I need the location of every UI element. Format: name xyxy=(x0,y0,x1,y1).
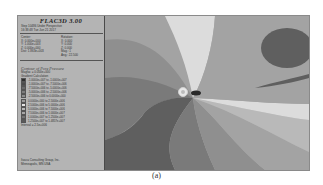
figure-caption: (a) xyxy=(152,171,161,180)
dist-value: Dist: 1.863e+003 xyxy=(21,50,44,54)
divider xyxy=(20,60,103,61)
singularity-dark-spot xyxy=(191,91,201,96)
divider xyxy=(20,33,103,34)
time-line: 16:38:48 Tue Jun 21 2017 xyxy=(21,29,56,33)
contour-plot xyxy=(105,16,309,170)
borehole-center xyxy=(181,90,185,94)
location-line: Minneapolis, MN USA xyxy=(21,163,50,167)
contour-legend: -1.0000e+007 to -1.0000e+007-1.0000e+007… xyxy=(21,78,67,123)
app-title: FLAC3D 3.00 xyxy=(18,17,104,24)
ang-value: Ang.: 22.500 xyxy=(61,54,78,58)
interval-line: Interval = 2.5e+006 xyxy=(21,124,47,128)
info-panel: FLAC3D 3.00 Step 10486 Under Perspective… xyxy=(18,16,105,170)
flac3d-figure: FLAC3D 3.00 Step 10486 Under Perspective… xyxy=(17,15,310,171)
